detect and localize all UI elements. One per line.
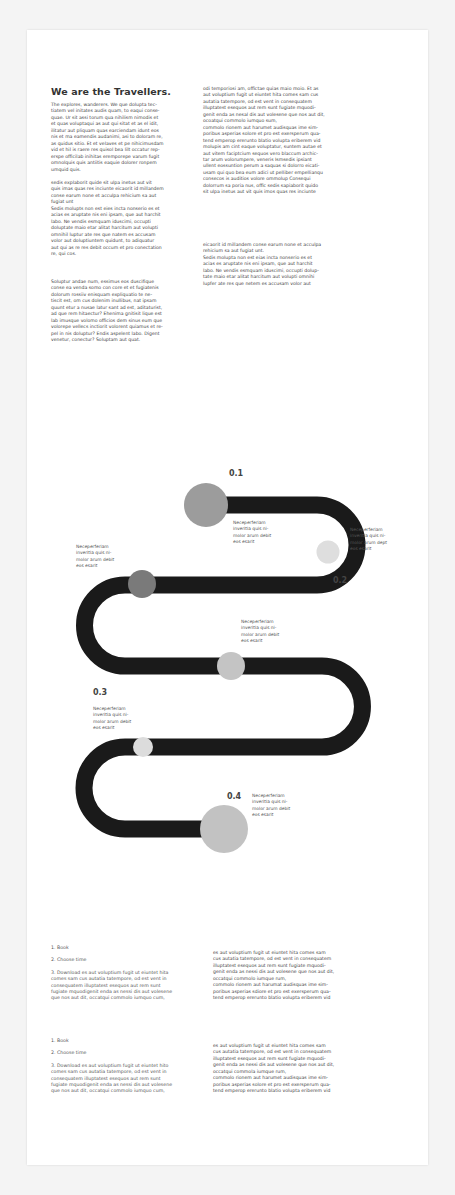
step-number-1: 0.1	[229, 469, 243, 478]
step-2-marker	[317, 541, 340, 564]
steps-list-item: 1. Book	[51, 945, 211, 951]
step-3-marker	[128, 570, 156, 598]
step-label-3: Neceperferiam inveritia quis ni- molor a…	[76, 544, 114, 569]
steps-list-item: 3. Download es aut voluptium fugit ut ei…	[51, 1063, 211, 1095]
steps-side-text-2: es aut voluptium fugit ut eiuntet hita c…	[213, 1043, 393, 1095]
steps-list-2: 1. Book 2. Choose time 3. Download es au…	[51, 1038, 211, 1101]
step-number-2: 0.2	[333, 576, 347, 585]
steps-list-item: 2. Choose time	[51, 1050, 211, 1056]
step-label-2: Neceperferiam inveritia quis ni- molor a…	[350, 527, 387, 552]
step-number-3: 0.3	[93, 688, 107, 697]
steps-list-item: 3. Download es aut voluptium fugit ut ei…	[51, 970, 211, 1002]
steps-list-1: 1. Book 2. Choose time 3. Download es au…	[51, 945, 211, 1008]
steps-list-item: 2. Choose time	[51, 957, 211, 963]
step-4-marker	[217, 652, 245, 680]
step-label-1: Neceperferiam inveritia quis ni- molor a…	[233, 520, 271, 545]
document-page: We are the Travellers. The explores, wan…	[27, 30, 428, 1165]
step-5-marker	[133, 737, 153, 757]
step-6-marker	[200, 805, 248, 853]
step-label-5: Neceperferiam inveritia quis ni- molor a…	[93, 706, 131, 731]
steps-list-item: 1. Book	[51, 1038, 211, 1044]
step-label-4: Neceperferiam inveritia quis ni- molor a…	[241, 619, 279, 644]
step-1-marker	[184, 483, 228, 527]
steps-side-text-1: es aut voluptium fugit ut eiuntet hita c…	[213, 950, 393, 1002]
step-label-6: Neceperferiam inveritia quis ni- molor a…	[252, 793, 290, 818]
step-number-4: 0.4	[227, 792, 241, 801]
